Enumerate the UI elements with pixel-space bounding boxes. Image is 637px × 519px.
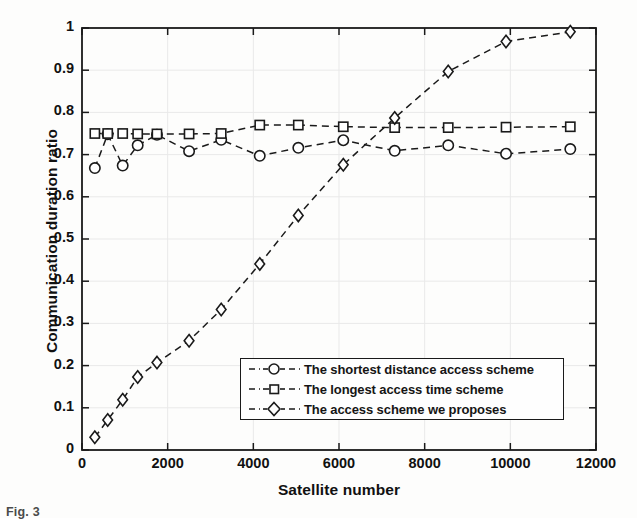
series-line [95, 125, 571, 134]
data-point-square [152, 129, 161, 138]
data-point-square [90, 129, 99, 138]
legend-entry-2: The access scheme we proposes [241, 399, 563, 419]
data-point-diamond [501, 35, 511, 47]
legend-marker-circle-icon [246, 360, 304, 378]
data-point-square [184, 129, 193, 138]
data-point-circle [184, 146, 194, 156]
data-point-square [133, 129, 142, 138]
legend-entry-1: The longest access time scheme [241, 379, 563, 399]
data-point-circle [565, 144, 575, 154]
data-point-diamond [184, 335, 194, 347]
data-point-circle [90, 163, 100, 173]
series-line [95, 134, 571, 168]
data-point-diamond [443, 65, 453, 77]
series-0 [90, 129, 576, 173]
series-1 [90, 120, 575, 138]
data-point-circle [255, 151, 265, 161]
data-point-square [339, 122, 348, 131]
data-point-circle [443, 140, 453, 150]
data-point-circle [293, 143, 303, 153]
legend-label-1: The longest access time scheme [304, 382, 503, 397]
data-point-circle [117, 160, 127, 170]
data-point-square [566, 122, 575, 131]
data-point-diamond [216, 303, 226, 315]
data-point-diamond [133, 371, 143, 383]
legend-marker-square-icon [246, 380, 304, 398]
data-point-circle [132, 140, 142, 150]
data-point-square [103, 129, 112, 138]
data-point-diamond [294, 209, 304, 221]
data-point-square [217, 129, 226, 138]
data-point-square [501, 123, 510, 132]
data-point-circle [338, 135, 348, 145]
legend-marker-diamond-icon [246, 400, 304, 418]
data-point-square [444, 123, 453, 132]
data-point-square [294, 120, 303, 129]
legend-entry-0: The shortest distance access scheme [241, 359, 563, 379]
data-point-circle [501, 149, 511, 159]
figure-caption: Fig. 3 [6, 505, 40, 519]
data-point-circle [389, 146, 399, 156]
data-point-square [255, 120, 264, 129]
legend-label-2: The access scheme we proposes [304, 402, 506, 417]
data-point-square [118, 129, 127, 138]
legend: The shortest distance access scheme The … [240, 358, 564, 420]
legend-label-0: The shortest distance access scheme [304, 362, 534, 377]
data-point-diamond [152, 356, 162, 368]
